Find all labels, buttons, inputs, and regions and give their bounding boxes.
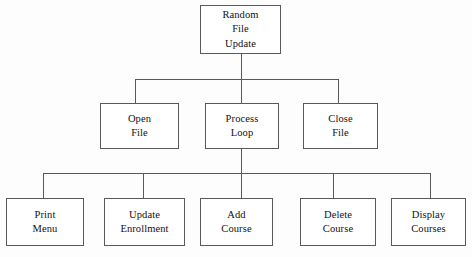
node-label-line: Update	[225, 37, 256, 51]
node-label-line: Update	[129, 208, 160, 222]
node-label-line: Menu	[33, 222, 58, 236]
node-label-line: Course	[221, 222, 251, 236]
node-random-file-update[interactable]: RandomFileUpdate	[200, 5, 281, 54]
node-label-line: Enrollment	[120, 222, 168, 236]
node-label-line: Close	[328, 112, 352, 126]
node-label-line: Open	[128, 112, 151, 126]
node-label-line: Add	[227, 208, 245, 222]
node-open-file[interactable]: OpenFile	[100, 103, 179, 149]
node-label-line: Course	[323, 222, 353, 236]
node-label-line: File	[332, 126, 349, 140]
node-label-line: File	[131, 126, 148, 140]
node-delete-course[interactable]: DeleteCourse	[300, 198, 376, 246]
node-label-line: Random	[222, 8, 258, 22]
structure-chart: RandomFileUpdateOpenFileProcessLoopClose…	[0, 0, 472, 257]
node-display-courses[interactable]: DisplayCourses	[391, 198, 466, 246]
node-update-enrollment[interactable]: UpdateEnrollment	[104, 198, 185, 246]
node-print-menu[interactable]: PrintMenu	[6, 198, 84, 246]
node-label-line: Process	[226, 112, 259, 126]
node-add-course[interactable]: AddCourse	[200, 198, 273, 246]
node-close-file[interactable]: CloseFile	[303, 103, 378, 149]
node-label-line: Loop	[231, 126, 254, 140]
node-label-line: File	[232, 22, 249, 36]
node-label-line: Display	[412, 208, 445, 222]
node-label-line: Delete	[324, 208, 352, 222]
node-process-loop[interactable]: ProcessLoop	[205, 103, 279, 149]
node-label-line: Print	[35, 208, 56, 222]
node-label-line: Courses	[411, 222, 446, 236]
